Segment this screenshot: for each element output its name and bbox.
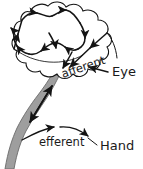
label-hand: Hand <box>100 138 134 153</box>
label-efferent: efferent <box>39 135 85 149</box>
pathway-diagram: afferent efferent Eye Hand <box>0 0 143 169</box>
label-eye: Eye <box>112 64 136 79</box>
diagram-canvas: afferent efferent Eye Hand <box>0 0 143 169</box>
